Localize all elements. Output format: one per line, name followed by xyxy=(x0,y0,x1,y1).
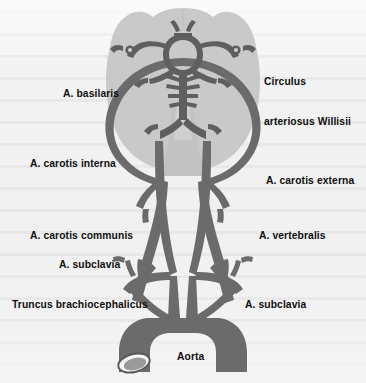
label-a-carotis-interna: A. carotis interna xyxy=(30,157,116,170)
label-circulus-arteriosus-willisii: Circulus arteriosus Willisii xyxy=(264,49,351,155)
label-a-subclavia-left: A. subclavia xyxy=(59,258,120,271)
mca-lumen-right xyxy=(234,48,238,52)
label-a-vertebralis: A. vertebralis xyxy=(259,229,326,242)
pontine-branch-r3 xyxy=(187,94,198,98)
label-a-subclavia-right: A. subclavia xyxy=(245,298,306,311)
left-common-carotid-root xyxy=(168,276,180,318)
label-aorta: Aorta xyxy=(177,350,204,363)
aortic-arch xyxy=(116,318,247,376)
label-line-1: Circulus xyxy=(264,75,351,88)
label-a-basilaris: A. basilaris xyxy=(63,87,119,100)
label-a-carotis-externa: A. carotis externa xyxy=(266,174,354,187)
pontine-branch-l3 xyxy=(168,94,179,98)
subclavian-branch-l1 xyxy=(125,260,136,277)
subclavian-branch-r1 xyxy=(230,260,241,277)
external-carotid-right-branch xyxy=(217,209,224,223)
right-common-carotid-root xyxy=(186,276,198,318)
label-a-carotis-communis: A. carotis communis xyxy=(30,229,133,242)
subclavian-arteries xyxy=(113,256,253,294)
subclavian-branch-r4 xyxy=(241,256,253,263)
external-carotid-left-branch xyxy=(142,209,149,223)
label-truncus-brachiocephalicus: Truncus brachiocephalicus xyxy=(12,298,148,311)
subclavian-branch-l2 xyxy=(137,259,143,275)
subclavian-branch-r2 xyxy=(223,259,229,275)
left-subclavian-root xyxy=(192,288,236,318)
mca-lumen-left xyxy=(128,48,132,52)
label-line-2: arteriosus Willisii xyxy=(264,115,351,128)
figure-page: Circulus arteriosus Willisii A. basilari… xyxy=(0,0,366,383)
basilar-artery xyxy=(179,72,187,120)
